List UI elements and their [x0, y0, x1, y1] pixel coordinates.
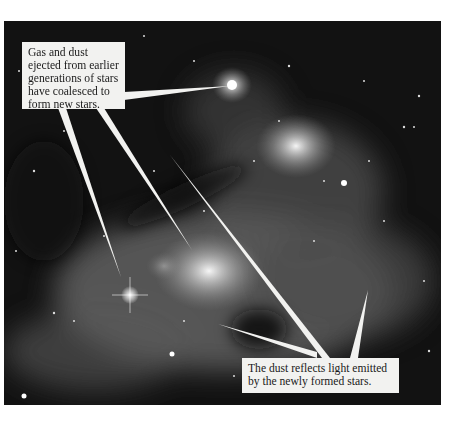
callout-bottom-line: The dust reflects light emitted	[248, 362, 395, 375]
callout-top-line: form new stars.	[28, 98, 121, 111]
callout-top-line: have coalesced to	[28, 85, 121, 98]
callout-top-line: ejected from earlier	[28, 59, 121, 72]
callout-bottom-line: by the newly formed stars.	[248, 375, 395, 388]
callout-top-line: generations of stars	[28, 72, 121, 85]
callout-top-line: Gas and dust	[28, 46, 121, 59]
callout-reflection: The dust reflects light emitted by the n…	[242, 358, 399, 393]
callout-star-formation: Gas and dust ejected from earlier genera…	[22, 42, 125, 109]
